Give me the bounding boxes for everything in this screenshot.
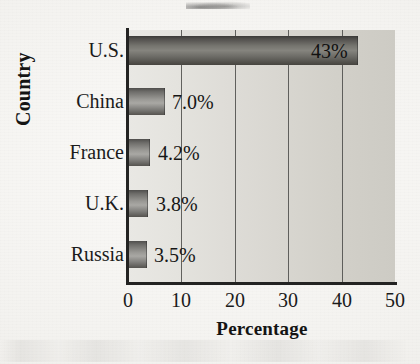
y-tick-label-france: France: [28, 142, 124, 162]
value-label-russia: 3.5%: [154, 245, 196, 265]
x-axis-title: Percentage: [128, 318, 396, 340]
x-tick-label-10: 10: [171, 288, 191, 312]
gridline-40: [342, 30, 343, 283]
value-label-china: 7.0%: [172, 92, 214, 112]
gridline-20: [235, 30, 236, 283]
x-axis-tick-labels: 0 10 20 30 40 50: [128, 288, 395, 314]
bar-chart-figure: Country U.S. China France U.K. Russia 43…: [0, 0, 420, 364]
value-label-us: 43%: [311, 41, 348, 61]
scan-artifact-bottom: [0, 340, 420, 362]
x-tick-label-40: 40: [332, 288, 352, 312]
y-tick-label-russia: Russia: [28, 244, 124, 264]
y-axis-tick-labels: U.S. China France U.K. Russia: [26, 30, 124, 283]
bar-france[interactable]: [128, 139, 150, 166]
scan-artifact-top: [186, 0, 250, 9]
x-tick-label-0: 0: [123, 288, 133, 312]
plot-area: 43% 7.0% 4.2% 3.8% 3.5%: [128, 30, 395, 283]
bar-uk[interactable]: [128, 190, 148, 217]
y-tick-label-us: U.S.: [28, 40, 124, 60]
y-tick-label-uk: U.K.: [28, 193, 124, 213]
x-axis-line: [126, 282, 397, 285]
gridline-30: [288, 30, 289, 283]
value-label-france: 4.2%: [158, 143, 200, 163]
y-tick-label-china: China: [28, 91, 124, 111]
x-tick-label-30: 30: [278, 288, 298, 312]
bar-china[interactable]: [128, 88, 165, 115]
value-label-uk: 3.8%: [156, 194, 198, 214]
x-tick-label-20: 20: [225, 288, 245, 312]
y-axis-line: [126, 28, 129, 285]
bar-russia[interactable]: [128, 241, 147, 268]
x-tick-label-50: 50: [385, 288, 405, 312]
